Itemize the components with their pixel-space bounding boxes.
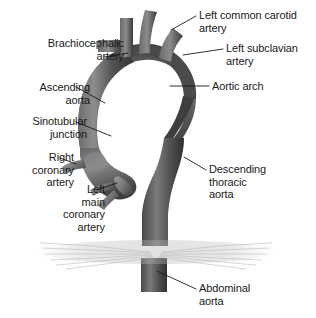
arch-crown <box>122 46 196 99</box>
label-left-subclavian-artery: Left subclavian artery <box>226 42 298 67</box>
label-ascending-aorta: Ascending aorta <box>18 81 90 106</box>
label-left-main-coronary-artery: Left main coronary artery <box>43 183 105 233</box>
label-descending-thoracic-aorta: Descending thoracic aorta <box>209 163 266 201</box>
label-abdominal-aorta: Abdominal aorta <box>199 282 250 307</box>
label-aortic-arch: Aortic arch <box>212 80 263 93</box>
descending-thoracic-aorta-shape <box>142 138 184 246</box>
label-left-common-carotid-artery: Left common carotid artery <box>199 9 297 34</box>
label-sinotubular-junction: Sinotubular junction <box>11 115 87 140</box>
label-brachiocephalic-artery: Brachiocephalic artery <box>14 37 124 62</box>
left-subclavian-shape <box>159 28 183 62</box>
aorta-anatomy-figure: Left common carotid artery Brachiocephal… <box>0 0 316 318</box>
